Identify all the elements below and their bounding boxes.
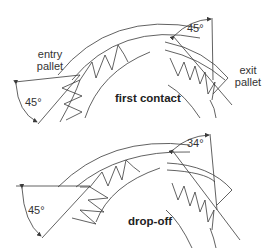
first-contact-title: first contact [115,92,181,104]
exit-pallet-label-line2: pallet [232,76,264,88]
entry-angle-drop-off: 45° [28,204,45,216]
exit-pallet-label: exit pallet [232,64,264,88]
entry-pallet-label-line1: entry [30,48,70,60]
drop-off-title: drop-off [128,215,172,227]
exit-angle-drop-off: 34° [187,137,204,149]
entry-angle-first-contact: 45° [25,96,42,108]
entry-pallet-label: entry pallet [30,48,70,72]
exit-pallet-label-line1: exit [232,64,264,76]
entry-pallet-label-line2: pallet [30,60,70,72]
exit-angle-first-contact: 45° [187,22,204,34]
escapement-diagram: entry pallet 45° 45° exit pallet first c… [0,0,264,251]
entry-pallet-first-contact [15,24,200,124]
exit-pallet-drop-off [166,134,240,248]
